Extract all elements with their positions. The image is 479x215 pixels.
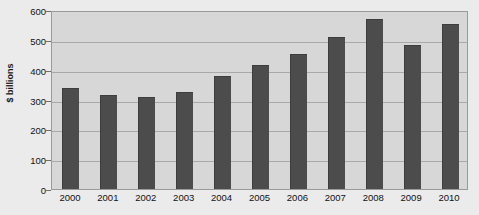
x-tick-label-2010: 2010 bbox=[430, 192, 468, 203]
x-tick-label-2000: 2000 bbox=[51, 192, 89, 203]
x-tick-label-2001: 2001 bbox=[89, 192, 127, 203]
x-tick-label-2004: 2004 bbox=[203, 192, 241, 203]
x-tick-label-2009: 2009 bbox=[392, 192, 430, 203]
x-tick-label-2008: 2008 bbox=[354, 192, 392, 203]
x-axis-tick-labels: 2000200120022003200420052006200720082009… bbox=[0, 0, 479, 215]
x-tick-label-2002: 2002 bbox=[127, 192, 165, 203]
bar-chart: $ billions 0100200300400500600 200020012… bbox=[0, 0, 479, 215]
x-tick-label-2005: 2005 bbox=[241, 192, 279, 203]
x-tick-label-2003: 2003 bbox=[165, 192, 203, 203]
x-tick-label-2006: 2006 bbox=[278, 192, 316, 203]
x-tick-label-2007: 2007 bbox=[316, 192, 354, 203]
